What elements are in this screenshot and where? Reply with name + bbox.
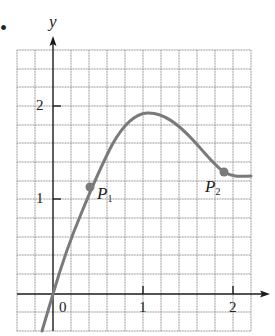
point-p2-name: P (205, 177, 215, 196)
x-tick-label-1: 1 (139, 300, 147, 315)
point-p1-name: P (97, 184, 107, 203)
y-axis-label: y (49, 13, 57, 30)
x-tick-label-2: 2 (229, 300, 237, 315)
point-p1-subscript: 1 (107, 193, 112, 204)
point-p1-marker (86, 183, 95, 192)
graph-canvas (0, 0, 275, 336)
point-p2-marker (220, 168, 229, 177)
y-tick-label-1: 1 (36, 191, 44, 206)
point-p1-label: P1 (97, 185, 112, 204)
y-tick-label-2: 2 (36, 98, 44, 113)
function-curve (42, 113, 251, 331)
point-p2-label: P2 (205, 178, 220, 197)
x-tick-label-0: 0 (59, 300, 67, 315)
item-bullet: • (0, 18, 7, 38)
point-p2-subscript: 2 (215, 186, 220, 197)
